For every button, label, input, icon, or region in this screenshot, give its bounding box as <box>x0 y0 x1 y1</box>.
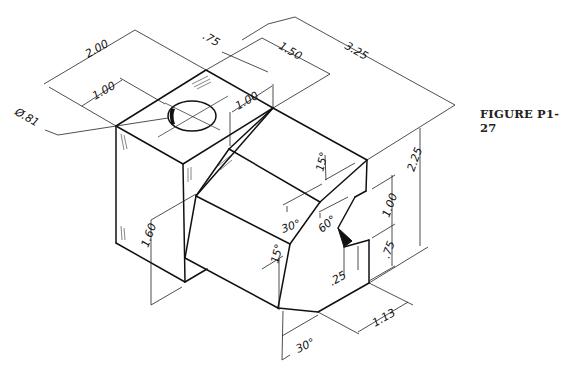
dim-overall-length: 3.25 <box>343 39 371 63</box>
dim-hole-side-offset: .75 <box>201 29 223 49</box>
dimension-lines <box>44 17 455 360</box>
dim-notch-upper: 1.00 <box>380 192 401 219</box>
angle-30-bottom: 30° <box>294 336 317 356</box>
dim-notch-lower: .75 <box>380 239 398 260</box>
angle-top: 15° <box>313 151 331 173</box>
dim-slot-width: 1.50 <box>277 39 305 63</box>
hole <box>158 96 228 137</box>
figure-caption: FIGURE P1-27 <box>480 107 575 135</box>
dim-overall-height: 2.25 <box>405 146 426 173</box>
dim-lower-height: 1.60 <box>139 222 160 249</box>
dim-chamfer-offset: 1.00 <box>233 89 261 113</box>
dim-hole-diameter: Ø.81 <box>12 105 42 130</box>
dim-bottom-offset: 1.13 <box>370 306 398 330</box>
shading-hatch <box>121 76 232 240</box>
dim-notch-depth: .25 <box>327 269 349 289</box>
angle-30-upper: 30° <box>280 217 303 236</box>
dim-overall-width: 2.00 <box>83 37 111 61</box>
angle-15-lower: 15° <box>268 243 286 265</box>
technical-drawing: 2.00 1.00 Ø.81 .75 1.50 3.25 1.00 2.25 1… <box>0 0 575 376</box>
angle-60: 60° <box>316 213 339 235</box>
dim-hole-offset: 1.00 <box>90 79 118 103</box>
